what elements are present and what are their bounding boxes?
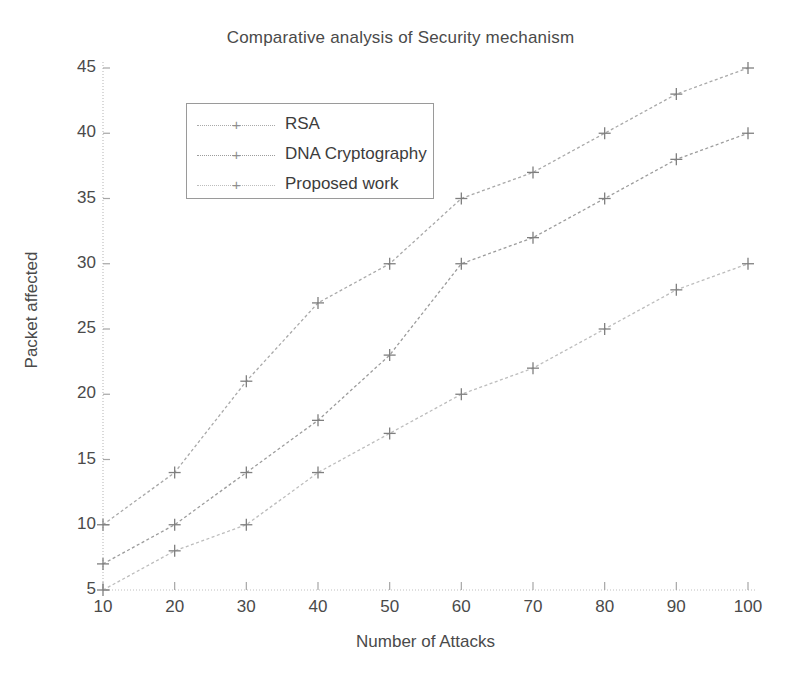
- data-point-marker: [384, 427, 396, 439]
- data-point-marker: [527, 362, 539, 374]
- data-point-marker: [240, 519, 252, 531]
- legend-item-3[interactable]: +Proposed work: [187, 170, 435, 202]
- legend-label: Proposed work: [285, 174, 398, 194]
- legend-swatch: +: [197, 185, 275, 187]
- chart-legend: +RSA+DNA Cryptography+Proposed work: [186, 103, 434, 199]
- data-point-marker: [169, 545, 181, 557]
- data-point-marker: [670, 153, 682, 165]
- data-point-marker: [527, 166, 539, 178]
- data-point-marker: [599, 127, 611, 139]
- data-point-marker: [670, 284, 682, 296]
- data-point-marker: [169, 519, 181, 531]
- data-point-marker: [599, 193, 611, 205]
- data-point-marker: [742, 127, 754, 139]
- data-point-marker: [384, 349, 396, 361]
- legend-swatch: +: [197, 155, 275, 157]
- data-point-marker: [169, 467, 181, 479]
- plus-marker-icon: +: [230, 118, 243, 131]
- data-point-marker: [742, 258, 754, 270]
- data-point-marker: [455, 193, 467, 205]
- data-point-marker: [240, 467, 252, 479]
- plot-svg: [0, 0, 801, 679]
- data-point-marker: [97, 519, 109, 531]
- legend-item-2[interactable]: +DNA Cryptography: [187, 140, 435, 172]
- data-point-marker: [97, 584, 109, 596]
- data-point-marker: [455, 258, 467, 270]
- figure-canvas: Comparative analysis of Security mechani…: [0, 0, 801, 679]
- data-point-marker: [97, 558, 109, 570]
- data-point-marker: [455, 388, 467, 400]
- legend-label: RSA: [285, 114, 320, 134]
- data-point-marker: [670, 88, 682, 100]
- data-point-marker: [599, 323, 611, 335]
- plus-marker-icon: +: [230, 178, 243, 191]
- plus-marker-icon: +: [230, 148, 243, 161]
- legend-swatch: +: [197, 125, 275, 127]
- series-line: [103, 264, 748, 590]
- legend-item-1[interactable]: +RSA: [187, 110, 435, 142]
- data-point-marker: [742, 62, 754, 74]
- legend-label: DNA Cryptography: [285, 144, 427, 164]
- data-point-marker: [527, 232, 539, 244]
- data-point-marker: [312, 467, 324, 479]
